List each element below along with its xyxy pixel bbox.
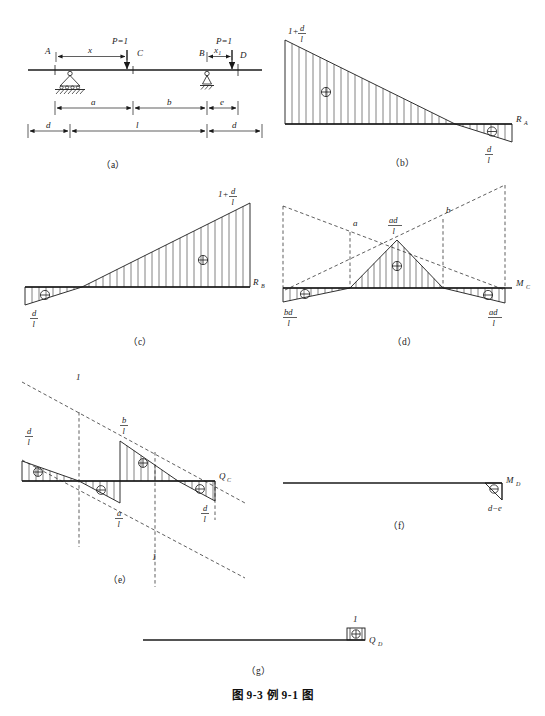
panel-c-ordinate-right-prefix: 1+ [218, 189, 229, 199]
panel-e-mid-positive-area [120, 441, 178, 481]
panel-b-ordinate-left-prefix: 1+ [288, 26, 299, 36]
panel-g-axis-sub: D [377, 641, 383, 647]
label-dimension-x: x [87, 45, 92, 55]
panel-f-axis-label: M [505, 475, 514, 485]
label-dim-d-right: d [232, 120, 237, 130]
label-dim-d-left: d [46, 120, 51, 130]
panel-letter-a: （a） [101, 157, 125, 171]
panel-e-sign-mid-positive [139, 459, 148, 468]
panel-b-negative-area [455, 124, 512, 142]
label-load-left: P=1 [111, 36, 128, 46]
panel-e-hatch-right [185, 481, 213, 500]
panel-c-ordinate-right-num: d [231, 186, 236, 196]
panel-g-group: 1 Q D [143, 614, 383, 647]
panel-b-ordinate-right-den: l [488, 155, 491, 165]
panel-d-dashed-construction [283, 185, 505, 290]
panel-f-group: d−e M D [283, 475, 521, 513]
panel-c-ordinate-left-num: d [32, 308, 37, 318]
panel-letter-e: （e） [108, 572, 132, 586]
panel-e-axis-sub: C [227, 477, 232, 483]
panel-b-sign-positive [321, 87, 330, 96]
panel-b-hatch-positive [292, 44, 446, 125]
panel-d-apex-den: l [393, 226, 396, 236]
panel-d-right-negative-area [443, 288, 505, 303]
panel-a-group: A C B D P=1 P=1 x x₁ a b e d l d [28, 36, 262, 138]
panel-c-sign-positive [198, 255, 207, 264]
panel-d-right-den: l [493, 318, 496, 328]
figure-svg: A C B D P=1 P=1 x x₁ a b e d l d [0, 0, 545, 716]
panel-b-axis-sub: A [523, 120, 528, 126]
panel-f-negative-area [485, 483, 502, 500]
panel-c-ordinate-left-den: l [33, 319, 36, 329]
panel-c-hatch-positive [89, 207, 243, 288]
panel-b-positive-area [285, 40, 455, 124]
support-pin-a [55, 71, 85, 94]
panel-d-axis-label: M [515, 278, 524, 288]
panel-d-dashed-label-a: a [353, 218, 358, 228]
label-point-b: B [199, 48, 205, 58]
panel-e-sign-right-negative [196, 485, 205, 494]
panel-d-group: a b ad l bd l ad l M C [283, 185, 531, 328]
panel-e-axis-label: Q [219, 471, 226, 481]
panel-c-ordinate-right-den: l [232, 197, 235, 207]
panel-e-topleft-num: d [27, 426, 32, 436]
panel-e-midtop-den: l [123, 426, 126, 436]
panel-b-group: 1+ d l d l R A [285, 23, 528, 165]
panel-e-unit-upper: 1 [76, 372, 81, 382]
panel-d-left-num: bd [284, 307, 293, 317]
label-dim-a: a [91, 97, 96, 107]
panel-e-right-den: l [204, 514, 207, 524]
panel-e-dashed-construction [22, 382, 245, 587]
panel-letter-f: （f） [388, 518, 411, 532]
panel-d-center-positive-area [350, 240, 443, 288]
panel-e-midbot-num: a [117, 508, 121, 518]
panel-b-axis-label: R [515, 114, 522, 124]
panel-b-ordinate-right-num: d [487, 144, 492, 154]
panel-d-dashed-label-b: b [446, 205, 451, 215]
figure-caption: 图 9-3 例 9-1 图 [0, 686, 545, 702]
panel-e-group: 1 1 d l b l a l d l Q C [22, 372, 245, 587]
support-pin-b [200, 71, 214, 89]
panel-e-topleft-den: l [28, 437, 31, 447]
panel-c-axis-label: R [252, 277, 259, 287]
panel-c-negative-area [25, 287, 82, 305]
panel-f-axis-sub: D [515, 481, 521, 487]
panel-g-axis-label: Q [369, 635, 376, 645]
panel-g-sign-positive [352, 630, 360, 638]
panel-e-midbot-den: l [118, 519, 121, 529]
label-point-d: D [239, 50, 247, 60]
panel-f-value-label: d−e [488, 503, 502, 513]
panel-e-right-num: d [203, 503, 208, 513]
panel-d-sign-center-positive [392, 261, 401, 270]
panel-g-value-label: 1 [353, 614, 358, 624]
label-dimension-x1: x₁ [213, 45, 221, 55]
label-dim-b: b [167, 97, 172, 107]
panel-e-midtop-num: b [122, 415, 126, 425]
label-dim-l: l [136, 120, 139, 130]
panel-d-hatch-center [356, 241, 440, 288]
panel-d-apex-num: ad [389, 215, 398, 225]
panel-e-sign-left-positive [34, 468, 43, 477]
panel-d-right-num: ad [489, 307, 498, 317]
panel-b-ordinate-left-den: l [301, 34, 304, 44]
label-point-c: C [137, 48, 144, 58]
panel-letter-g: （g） [246, 663, 271, 677]
panel-d-sign-right-negative [483, 290, 492, 299]
dimension-row-upper [55, 101, 238, 115]
panel-d-left-negative-area [283, 288, 350, 302]
panel-c-group: d l 1+ d l R B [25, 186, 265, 329]
label-dim-e: e [220, 97, 224, 107]
panel-d-left-den: l [288, 318, 291, 328]
panel-letter-d: （d） [392, 334, 417, 348]
panel-letter-b: （b） [390, 155, 415, 169]
panel-e-left-positive-area [22, 461, 79, 481]
panel-e-unit-lower: 1 [152, 552, 157, 562]
panel-c-axis-sub: B [261, 283, 265, 289]
figure-container: A C B D P=1 P=1 x x₁ a b e d l d [0, 0, 545, 716]
panel-d-axis-sub: C [526, 284, 531, 290]
dimension-row-lower [28, 124, 262, 138]
panel-letter-c: （c） [128, 334, 152, 348]
panel-b-ordinate-left-num: d [300, 23, 305, 33]
panel-b-sign-negative [487, 127, 496, 136]
label-point-a: A [44, 46, 51, 56]
